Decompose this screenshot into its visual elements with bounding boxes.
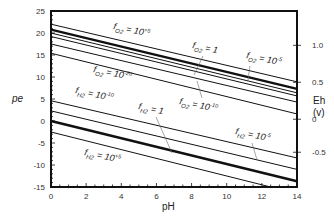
fugacity-label: fO2 = 10-20 (92, 63, 134, 84)
x-tick-label: 4 (119, 192, 124, 201)
x-tick-label: 0 (49, 192, 54, 201)
eh-tick-label: 0.5 (312, 78, 324, 87)
y-tick-label: 0 (41, 117, 46, 126)
y-tick-label: -10 (33, 161, 45, 170)
x-tick-label: 10 (222, 192, 231, 201)
series-line (51, 121, 297, 181)
fugacity-label: fO2 = 10-10 (178, 95, 220, 116)
y-tick-label: 20 (36, 29, 45, 38)
x-tick-label: 8 (189, 192, 194, 201)
x-tick-label: 2 (84, 192, 89, 201)
y-tick-label: 10 (36, 73, 45, 82)
y-tick-label: 5 (41, 95, 46, 104)
eh-tick-label: -0.5 (312, 148, 326, 157)
fugacity-label: fO2 = 10-5 (245, 49, 284, 69)
x-tick-label: 14 (293, 192, 302, 201)
y-tick-label: 25 (36, 7, 45, 16)
fugacity-lines (51, 24, 297, 187)
x-tick-label: 6 (154, 192, 159, 201)
pe-ph-diagram: 02468101214 2520151050-5-10-15 1.00.50-0… (0, 0, 334, 219)
fugacity-label: fH2 = 1 (137, 101, 164, 118)
fugacity-label: fH2 = 10-5 (234, 125, 272, 145)
y-tick-label: 15 (36, 51, 45, 60)
y-tick-label: -15 (33, 183, 45, 192)
eh-tick-label: 1.0 (312, 41, 324, 50)
x-tick-label: 12 (257, 192, 266, 201)
eh-unit-label: (v) (313, 107, 325, 118)
fugacity-label: fH2 = 10-10 (74, 84, 115, 105)
fugacity-label: fO2 = 10+5 (112, 20, 152, 41)
y-tick-label: -5 (38, 139, 46, 148)
x-axis-label: pH (162, 201, 175, 212)
fugacity-label: fH2 = 10+5 (83, 146, 123, 167)
eh-axis-label: Eh (313, 95, 325, 106)
series-line (51, 132, 271, 187)
y-axis-label: pe (11, 93, 24, 104)
fugacity-label: fO2 = 1 (191, 40, 219, 57)
